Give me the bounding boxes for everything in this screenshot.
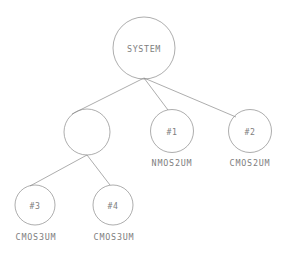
diagram-canvas: SYSTEM #1 #2 #3 #4 NMOS2UM	[0, 0, 300, 253]
tree-diagram: SYSTEM #1 #2 #3 #4 NMOS2UM	[0, 0, 300, 253]
caption-node-3: CMOS3UM	[16, 232, 57, 242]
caption-node-1: NMOS2UM	[152, 158, 193, 168]
node-4-label: #4	[107, 201, 118, 211]
node-4[interactable]: #4	[93, 185, 133, 225]
node-root-label: SYSTEM	[127, 44, 161, 54]
node-3[interactable]: #3	[15, 185, 55, 225]
edge-group	[30, 78, 236, 186]
node-group-circle[interactable]	[64, 109, 110, 155]
node-1-label: #1	[166, 127, 177, 137]
node-group[interactable]	[64, 109, 110, 155]
node-2[interactable]: #2	[229, 110, 272, 153]
node-root[interactable]: SYSTEM	[113, 17, 175, 79]
caption-group: NMOS2UM CMOS2UM CMOS3UM CMOS3UM	[16, 158, 271, 242]
edge-root-to-node2	[144, 78, 236, 117]
node-3-label: #3	[29, 201, 40, 211]
node-1[interactable]: #1	[151, 110, 194, 153]
edge-group-to-node4	[87, 155, 110, 185]
node-2-label: #2	[244, 127, 255, 137]
edge-group-to-node3	[30, 155, 87, 186]
caption-node-2: CMOS2UM	[230, 158, 271, 168]
caption-node-4: CMOS3UM	[94, 232, 135, 242]
edge-root-to-group	[72, 78, 144, 114]
